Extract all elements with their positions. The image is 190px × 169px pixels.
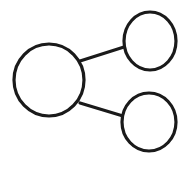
edges [80, 47, 124, 116]
node-root [14, 44, 84, 116]
node-child-top [124, 12, 176, 70]
node-link-diagram [0, 0, 190, 169]
node-child-bottom [122, 93, 176, 151]
edge-root-child-top [80, 47, 124, 61]
edge-root-child-bottom [80, 103, 123, 116]
nodes [14, 12, 176, 151]
